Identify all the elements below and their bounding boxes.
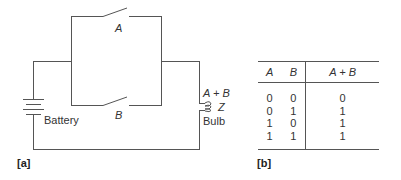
bulb-expression-label: A + B (203, 87, 230, 99)
cell-a-plus-b: 1 (306, 104, 379, 117)
switch-b-lever (103, 97, 127, 106)
switch-a-lever (103, 8, 127, 17)
cell-a: 0 (258, 83, 281, 105)
table-row: 0 0 0 (258, 83, 379, 105)
cell-b: 1 (281, 130, 306, 150)
truth-table: A B A + B 0 0 0 0 1 1 1 0 1 1 (258, 61, 379, 150)
bulb-label: Bulb (203, 115, 225, 127)
header-a-plus-b: A + B (306, 62, 379, 83)
cell-a: 1 (258, 130, 281, 150)
cell-a-plus-b: 0 (306, 83, 379, 105)
truth-table-header: A B A + B (258, 62, 379, 83)
switch-a-label: A (115, 22, 122, 34)
panel-a-caption: [a] (17, 157, 30, 169)
cell-a-plus-b: 1 (306, 117, 379, 130)
table-row: 0 1 1 (258, 104, 379, 117)
cell-b: 1 (281, 104, 306, 117)
table-row: 1 0 1 (258, 117, 379, 130)
bulb-output-label: Z (218, 101, 225, 113)
cell-b: 0 (281, 83, 306, 105)
cell-a: 0 (258, 104, 281, 117)
panel-b-caption: [b] (257, 157, 271, 169)
cell-a-plus-b: 1 (306, 130, 379, 150)
or-gate-circuit-figure: A B Battery A + B Z Bulb [a] A B A + B 0… (0, 0, 401, 180)
table-row: 1 1 1 (258, 130, 379, 150)
header-a: A (258, 62, 281, 83)
cell-b: 0 (281, 117, 306, 130)
bulb-filament (205, 102, 211, 112)
cell-a: 1 (258, 117, 281, 130)
battery-label: Battery (44, 114, 79, 126)
switch-b-label: B (115, 109, 122, 121)
header-b: B (281, 62, 306, 83)
